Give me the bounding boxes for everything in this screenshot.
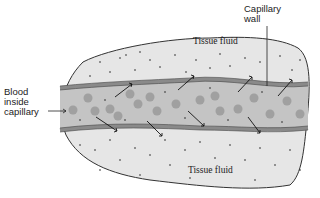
label-tissue-fluid-top: Tissue fluid: [193, 36, 238, 46]
label-tissue-fluid-bottom: Tissue fluid: [188, 165, 233, 175]
label-capillary-wall: Capillary wall: [244, 4, 281, 24]
label-blood-inside-capillary: Blood inside capillary: [4, 87, 39, 117]
capillary-diagram: [0, 0, 320, 198]
